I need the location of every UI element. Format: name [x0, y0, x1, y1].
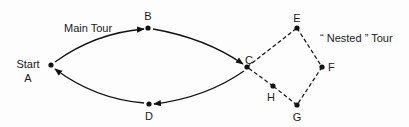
node-label-f: F [328, 61, 335, 73]
tour-diagram: Main Tour “ Nested ” Tour Start A B C D … [0, 0, 409, 127]
edge-c-d [154, 71, 244, 104]
node-label-d: D [145, 110, 153, 122]
edge-e-f [297, 28, 322, 67]
node-label-h: H [267, 91, 275, 103]
edge-c-e [247, 28, 297, 67]
node-label-g: G [293, 111, 302, 123]
edge-d-a [55, 69, 144, 103]
nested-tour-edges [247, 28, 322, 105]
node-a [48, 62, 53, 67]
node-b [145, 25, 150, 30]
node-d [146, 101, 151, 106]
node-label-c: C [245, 54, 253, 66]
node-label-b: B [144, 10, 151, 22]
node-f [319, 64, 324, 69]
node-e [294, 25, 299, 30]
node-label-a: A [24, 72, 31, 84]
node-label-e: E [293, 12, 300, 24]
diagram-graphics [0, 0, 409, 127]
edge-f-g [297, 67, 322, 105]
edge-b-c [153, 29, 243, 64]
edge-h-c [247, 67, 273, 86]
start-label: Start [16, 58, 39, 70]
node-g [294, 102, 299, 107]
node-h [270, 83, 275, 88]
nested-tour-label: “ Nested ” Tour [320, 32, 393, 44]
edge-g-h [273, 86, 297, 105]
main-tour-label: Main Tour [64, 22, 112, 34]
